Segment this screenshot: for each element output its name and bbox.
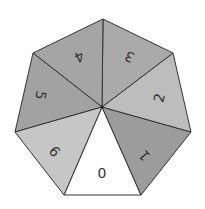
segment-label-0: 0	[98, 165, 107, 181]
heptagon-figure: 0123456	[0, 0, 205, 209]
center-point	[101, 106, 104, 109]
heptagon-svg: 0123456	[0, 0, 205, 209]
